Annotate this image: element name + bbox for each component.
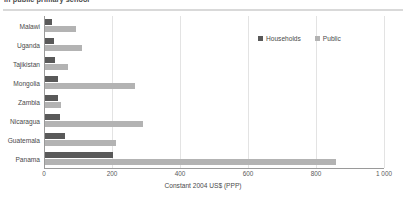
bar-public[interactable] bbox=[45, 121, 143, 127]
chart-title-band: in public primary school bbox=[0, 0, 406, 11]
bar-households[interactable] bbox=[45, 133, 65, 139]
category-row: Panama bbox=[44, 149, 384, 168]
x-tick-label: 600 bbox=[243, 170, 254, 177]
legend-swatch-public bbox=[315, 36, 320, 41]
category-label: Mongolia bbox=[13, 79, 40, 86]
gridline bbox=[384, 16, 385, 168]
category-row: Nicaragua bbox=[44, 111, 384, 130]
bar-public[interactable] bbox=[45, 159, 336, 165]
x-axis-line bbox=[44, 168, 384, 169]
category-row: Malawi bbox=[44, 16, 384, 35]
category-row: Mongolia bbox=[44, 73, 384, 92]
x-axis-title: Constant 2004 US$ (PPP) bbox=[0, 182, 406, 189]
bar-public[interactable] bbox=[45, 64, 68, 70]
category-label: Panama bbox=[15, 155, 40, 162]
category-label: Malawi bbox=[19, 22, 40, 29]
category-row: Guatemala bbox=[44, 130, 384, 149]
title-divider bbox=[3, 9, 403, 11]
category-row: Zambia bbox=[44, 92, 384, 111]
x-tick-label: 1 000 bbox=[376, 170, 392, 177]
category-label: Zambia bbox=[18, 98, 40, 105]
legend-item-households[interactable]: Households bbox=[258, 35, 301, 42]
bar-households[interactable] bbox=[45, 76, 58, 82]
bar-households[interactable] bbox=[45, 19, 52, 25]
bar-households[interactable] bbox=[45, 114, 60, 120]
x-tick-label: 0 bbox=[42, 170, 46, 177]
category-label: Tajikistan bbox=[13, 60, 40, 67]
x-tick-label: 400 bbox=[175, 170, 186, 177]
legend-item-public[interactable]: Public bbox=[315, 35, 341, 42]
bar-households[interactable] bbox=[45, 57, 55, 63]
bar-public[interactable] bbox=[45, 26, 76, 32]
bar-households[interactable] bbox=[45, 95, 58, 101]
bar-households[interactable] bbox=[45, 152, 113, 158]
chart-title: in public primary school bbox=[4, 0, 89, 4]
chart-legend: Households Public bbox=[258, 35, 341, 42]
category-label: Nicaragua bbox=[10, 117, 40, 124]
category-label: Uganda bbox=[17, 41, 40, 48]
bar-households[interactable] bbox=[45, 38, 54, 44]
legend-label-public: Public bbox=[323, 35, 341, 42]
x-tick-label: 800 bbox=[311, 170, 322, 177]
category-label: Guatemala bbox=[8, 136, 40, 143]
bar-public[interactable] bbox=[45, 102, 61, 108]
legend-label-households: Households bbox=[266, 35, 301, 42]
bar-public[interactable] bbox=[45, 45, 82, 51]
bar-public[interactable] bbox=[45, 140, 116, 146]
legend-swatch-households bbox=[258, 36, 263, 41]
bar-public[interactable] bbox=[45, 83, 135, 89]
category-row: Tajikistan bbox=[44, 54, 384, 73]
x-tick-label: 200 bbox=[107, 170, 118, 177]
